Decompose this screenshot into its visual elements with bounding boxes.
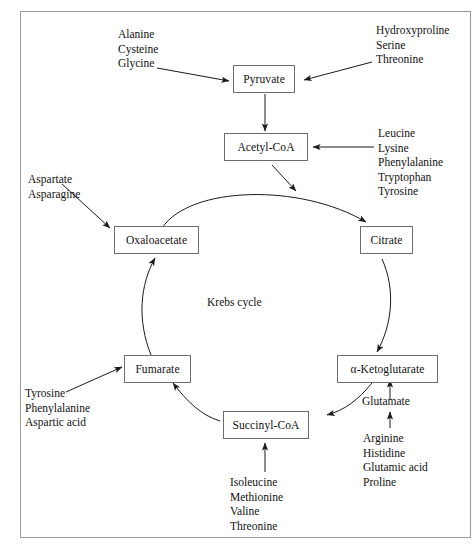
diagram-page: Pyruvate Acetyl-CoA Oxaloacetate Citrate… xyxy=(0,0,476,559)
label-group-to-pyruvate-right: Hydroxyproline Serine Threonine xyxy=(376,23,449,67)
label-group-to-fumarate-left: Tyrosine Phenylalanine Aspartic acid xyxy=(25,386,90,430)
node-citrate[interactable]: Citrate xyxy=(360,226,413,254)
cycle-center-label: Krebs cycle xyxy=(207,296,262,308)
node-succinyl-coa[interactable]: Succinyl-CoA xyxy=(223,411,309,439)
node-fumarate-label: Fumarate xyxy=(135,363,179,375)
node-alpha-ketoglutarate[interactable]: α-Ketoglutarate xyxy=(337,355,438,383)
node-alpha-ketoglutarate-label: α-Ketoglutarate xyxy=(351,363,425,375)
node-succinyl-coa-label: Succinyl-CoA xyxy=(233,419,300,431)
label-group-to-oxaloacetate-left: Aspartate Asparagine xyxy=(28,172,80,201)
node-citrate-label: Citrate xyxy=(371,234,403,246)
label-group-to-succinyl-coa-below: Isoleucine Methionine Valine Threonine xyxy=(230,475,283,533)
node-acetyl-coa[interactable]: Acetyl-CoA xyxy=(224,133,308,161)
label-group-to-pyruvate-left: Alanine Cysteine Glycine xyxy=(118,27,158,71)
text-glutamate: Glutamate xyxy=(362,394,410,409)
node-oxaloacetate-label: Oxaloacetate xyxy=(126,234,187,246)
label-group-to-glutamate-below: Arginine Histidine Glutamic acid Proline xyxy=(363,431,428,489)
node-pyruvate-label: Pyruvate xyxy=(243,73,285,85)
node-acetyl-coa-label: Acetyl-CoA xyxy=(237,141,294,153)
label-group-to-acetyl-coa-right: Leucine Lysine Phenylalanine Tryptophan … xyxy=(378,126,443,199)
node-oxaloacetate[interactable]: Oxaloacetate xyxy=(114,226,199,254)
node-fumarate[interactable]: Fumarate xyxy=(124,355,191,383)
node-pyruvate[interactable]: Pyruvate xyxy=(233,65,295,93)
